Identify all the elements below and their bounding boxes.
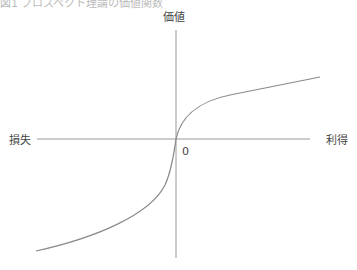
- value-curve: [36, 77, 320, 251]
- origin-label: 0: [182, 145, 189, 158]
- x-axis-positive-label: 利得: [326, 131, 348, 147]
- y-axis-label: 価値: [163, 8, 185, 24]
- value-function-diagram: [0, 0, 357, 270]
- x-axis-negative-label: 損失: [9, 131, 31, 147]
